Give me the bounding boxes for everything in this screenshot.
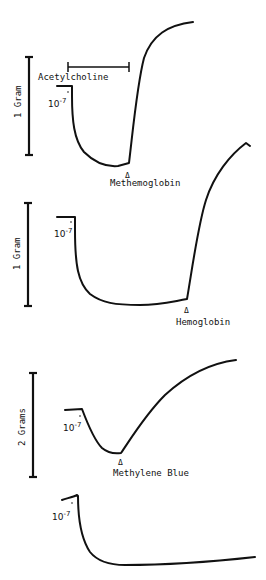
marker-label: Methylene Blue bbox=[113, 468, 189, 478]
triangle-marker-icon: Δ bbox=[118, 458, 123, 467]
panel-3-methylene-blue: 2 Grams 10-7 Δ Methylene Blue bbox=[17, 360, 236, 478]
dose-dot bbox=[79, 415, 81, 417]
scale-bar-1-gram bbox=[24, 203, 32, 306]
tension-recordings-figure: 1 Gram Acetylcholine 10-7 Δ Methemoglobi… bbox=[0, 0, 266, 580]
panel-1-methemoglobin: 1 Gram Acetylcholine 10-7 Δ Methemoglobi… bbox=[13, 22, 193, 188]
acetylcholine-bracket bbox=[68, 62, 129, 72]
tension-trace-2 bbox=[57, 143, 250, 305]
scale-bar-label: 1 Gram bbox=[12, 237, 22, 270]
marker-label: Hemoglobin bbox=[176, 317, 230, 327]
tension-trace-4 bbox=[62, 495, 255, 565]
drug-label: Acetylcholine bbox=[38, 72, 108, 82]
dose-dot bbox=[71, 502, 73, 504]
dose-label: 10-7 bbox=[54, 227, 72, 239]
scale-bar-2-grams bbox=[29, 373, 37, 477]
scale-bar-label: 1 Gram bbox=[13, 85, 23, 118]
panel-2-hemoglobin: 1 Gram 10-7 Δ Hemoglobin bbox=[12, 143, 250, 327]
scale-bar-label: 2 Grams bbox=[17, 408, 27, 446]
tension-trace-3 bbox=[65, 360, 236, 453]
dose-dot bbox=[67, 91, 69, 93]
scale-bar-1-gram bbox=[25, 57, 33, 155]
dose-label: 10-7 bbox=[63, 421, 81, 433]
dose-label: 10-7 bbox=[48, 97, 66, 109]
marker-label: Methemoglobin bbox=[110, 178, 180, 188]
panel-4-control: 10-7 bbox=[52, 495, 255, 565]
dose-label: 10-7 bbox=[52, 510, 70, 522]
triangle-marker-icon: Δ bbox=[184, 306, 189, 315]
tension-trace-1 bbox=[57, 22, 193, 166]
dose-dot bbox=[70, 221, 72, 223]
